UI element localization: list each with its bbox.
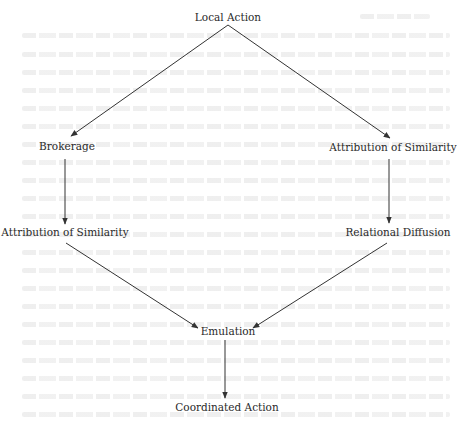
node-relational-diffusion: Relational Diffusion (345, 227, 450, 238)
node-emulation: Emulation (201, 326, 256, 337)
node-coordinated-action: Coordinated Action (175, 402, 278, 413)
edge-relational-diffusion-to-emulation (253, 243, 387, 328)
node-attribution-of-similarity-right: Attribution of Similarity (329, 142, 456, 153)
edge-local-action-to-brokerage (71, 25, 228, 136)
edge-local-action-to-attribution-right (228, 25, 390, 138)
node-local-action: Local Action (195, 12, 261, 23)
node-brokerage: Brokerage (39, 141, 95, 152)
node-attribution-of-similarity-left: Attribution of Similarity (1, 227, 128, 238)
edge-attribution-left-to-emulation (66, 243, 198, 328)
